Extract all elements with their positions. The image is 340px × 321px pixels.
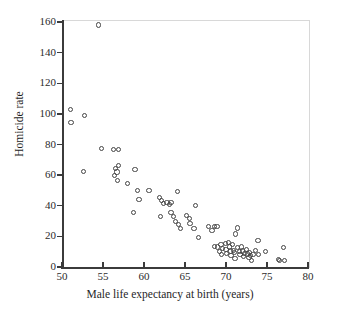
data-point (263, 249, 268, 254)
data-point (114, 169, 119, 174)
data-point (96, 22, 101, 27)
data-point (233, 231, 238, 236)
scatter-chart-figure: 020406080100120140160 50556065707580 Mal… (0, 0, 340, 321)
y-tick-label-60: 60 (0, 169, 56, 180)
data-point (82, 113, 87, 118)
y-axis-title: Homicide rate (13, 59, 25, 189)
data-point (132, 167, 137, 172)
y-tick-label-80: 80 (0, 139, 56, 150)
data-point (68, 107, 73, 112)
y-tick-label-140: 140 (0, 47, 56, 58)
data-point (81, 169, 86, 174)
y-tick-label-160: 160 (0, 16, 56, 27)
data-point (255, 238, 260, 243)
data-point (281, 245, 286, 250)
plot-area (62, 22, 308, 267)
y-tick-label-120: 120 (0, 77, 56, 88)
data-point (256, 252, 261, 257)
data-point (115, 178, 120, 183)
data-point (250, 252, 255, 257)
x-tick-label-55: 55 (88, 271, 118, 282)
y-tick-label-100: 100 (0, 108, 56, 119)
x-tick-label-60: 60 (129, 271, 159, 282)
data-point (68, 120, 73, 125)
data-point (235, 225, 240, 230)
x-tick-label-70: 70 (211, 271, 241, 282)
x-tick-label-65: 65 (170, 271, 200, 282)
y-tick-label-20: 20 (0, 230, 56, 241)
x-tick-label-80: 80 (293, 271, 323, 282)
data-point (282, 258, 287, 263)
data-point (116, 147, 121, 152)
data-point (158, 214, 163, 219)
data-point (232, 256, 237, 261)
data-point (99, 146, 104, 151)
y-tick-label-40: 40 (0, 200, 56, 211)
data-point (249, 258, 254, 263)
data-point (136, 197, 141, 202)
data-point (214, 224, 219, 229)
data-point (168, 200, 173, 205)
data-point (146, 188, 151, 193)
data-point (178, 226, 183, 231)
data-point (116, 163, 121, 168)
data-point (175, 189, 180, 194)
data-point (196, 235, 201, 240)
x-tick-label-50: 50 (47, 271, 77, 282)
data-point (131, 210, 136, 215)
data-point (125, 181, 130, 186)
data-point (191, 226, 196, 231)
x-tick-label-75: 75 (252, 271, 282, 282)
data-point (193, 203, 198, 208)
data-point (135, 188, 140, 193)
x-axis-title: Male life expectancy at birth (years) (0, 288, 340, 300)
